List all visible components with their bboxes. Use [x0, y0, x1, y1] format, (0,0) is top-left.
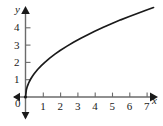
y-axis-arrow-icon	[21, 6, 30, 14]
y-axis-ticks	[26, 28, 31, 80]
x-tick-label-4: 4	[92, 101, 98, 112]
x-axis-label: x	[152, 95, 157, 106]
y-axis-label: y	[15, 4, 20, 15]
x-tick-label-2: 2	[58, 101, 64, 112]
graph-figure: y x 0 1 2 3 4 1 2 3 4 5 6 7	[0, 0, 163, 126]
curve-line	[26, 8, 154, 97]
y-tick-label-3: 3	[14, 40, 20, 51]
x-tick-label-3: 3	[75, 101, 81, 112]
y-axis-bottom-arrow-icon	[22, 112, 30, 120]
y-tick-label-2: 2	[14, 57, 20, 68]
y-tick-label-4: 4	[14, 22, 20, 33]
x-tick-label-7: 7	[144, 101, 150, 112]
origin-tick-label: 0	[15, 98, 21, 109]
x-tick-label-5: 5	[110, 101, 116, 112]
coordinate-plane	[0, 0, 163, 126]
y-tick-label-1: 1	[14, 74, 20, 85]
origin-point	[24, 95, 27, 98]
x-tick-label-6: 6	[127, 101, 133, 112]
x-tick-label-1: 1	[40, 101, 46, 112]
